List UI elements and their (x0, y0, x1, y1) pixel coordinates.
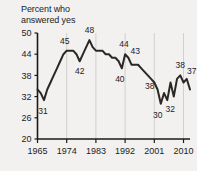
y-tick-label: 26 (21, 113, 31, 123)
data-point-labels-group: 314542484044433830323837 (38, 25, 196, 120)
y-axis-labels-group: 202632384450 (21, 28, 31, 144)
data-series-line (38, 40, 191, 104)
data-point-label: 40 (115, 74, 125, 84)
data-point-label: 38 (145, 81, 155, 91)
y-tick-label: 20 (21, 134, 31, 144)
data-point-label: 38 (176, 60, 186, 70)
data-point-label: 42 (75, 66, 85, 76)
x-axis-labels-group: 196519741983199220012010 (27, 146, 193, 156)
chart-figure: Percent who answered yes 202632384450 19… (0, 0, 197, 171)
x-tick-label: 1992 (115, 146, 135, 156)
data-point-label: 30 (153, 110, 163, 120)
y-tick-label: 32 (21, 92, 31, 102)
data-point-label: 44 (119, 39, 129, 49)
x-tick-label: 2001 (144, 146, 164, 156)
data-point-label: 48 (85, 25, 95, 35)
line-chart-plot: 202632384450 196519741983199220012010 31… (0, 0, 197, 171)
x-tick-label: 1974 (57, 146, 77, 156)
data-point-label: 32 (166, 104, 176, 114)
y-tick-label: 44 (21, 49, 31, 59)
y-tick-label: 50 (21, 28, 31, 38)
data-point-label: 37 (187, 66, 197, 76)
x-tick-label: 2010 (173, 146, 193, 156)
x-tick-label: 1965 (27, 146, 47, 156)
data-point-label: 43 (131, 46, 141, 56)
data-point-label: 31 (38, 106, 48, 116)
data-point-label: 45 (60, 36, 70, 46)
y-tick-label: 38 (21, 71, 31, 81)
x-tick-label: 1983 (86, 146, 106, 156)
